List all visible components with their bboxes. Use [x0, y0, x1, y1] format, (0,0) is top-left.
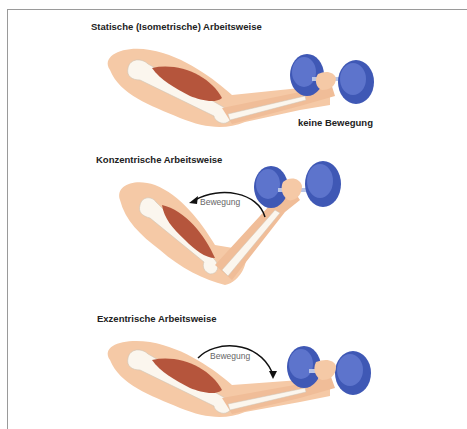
hand	[316, 72, 336, 90]
eccentric-arm-illustration	[0, 335, 459, 420]
movement-label-eccentric: Bewegung	[210, 351, 250, 361]
forearm-bones	[222, 210, 280, 276]
hand	[314, 360, 336, 380]
panel-title-eccentric: Exzentrische Arbeitsweise	[97, 313, 217, 324]
panel-title-static: Statische (Isometrische) Arbeitsweise	[91, 21, 262, 32]
static-arm-illustration	[0, 40, 459, 140]
movement-label-static: keine Bewegung	[298, 117, 373, 128]
movement-label-concentric: Bewegung	[200, 197, 240, 207]
concentric-arm-illustration	[0, 160, 459, 290]
